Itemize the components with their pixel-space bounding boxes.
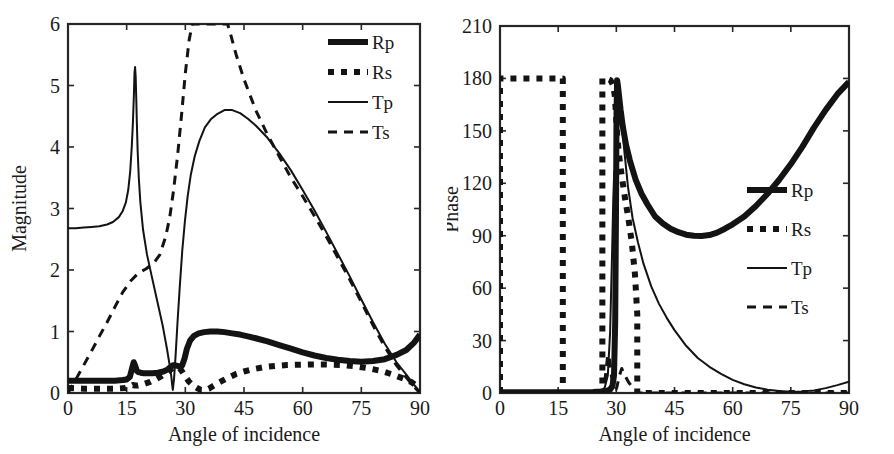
y-tick-label: 210 (462, 15, 492, 37)
x-tick-label: 90 (410, 397, 430, 419)
y-tick-label: 5 (50, 75, 60, 97)
x-tick-label: 45 (234, 397, 254, 419)
y-tick-label: 30 (472, 330, 492, 352)
magnitude-panel: 01530456075900123456Angle of incidenceMa… (0, 0, 447, 454)
x-axis-label: Angle of incidence (168, 423, 320, 446)
legend-label-Tp: Tp (791, 258, 812, 279)
y-tick-label: 2 (50, 259, 60, 281)
legend-label-Rs: Rs (372, 62, 392, 83)
x-tick-label: 45 (665, 397, 685, 419)
y-tick-label: 3 (50, 198, 60, 220)
y-tick-label: 0 (482, 382, 492, 404)
legend-label-Rp: Rp (372, 32, 394, 53)
x-tick-label: 0 (63, 397, 73, 419)
x-tick-label: 30 (606, 397, 626, 419)
x-tick-label: 60 (723, 397, 743, 419)
x-tick-label: 75 (351, 397, 371, 419)
y-tick-label: 0 (50, 382, 60, 404)
x-tick-label: 90 (839, 397, 859, 419)
y-tick-label: 6 (50, 13, 60, 35)
legend-label-Ts: Ts (791, 297, 809, 318)
legend-label-Tp: Tp (372, 92, 393, 113)
phase-chart-svg: 01530456075900306090120150180210Angle of… (447, 0, 894, 454)
magnitude-chart-svg: 01530456075900123456Angle of incidenceMa… (0, 0, 447, 454)
legend-label-Rp: Rp (791, 180, 813, 201)
legend-label-Ts: Ts (372, 122, 390, 143)
x-tick-label: 30 (175, 397, 195, 419)
x-axis-label: Angle of incidence (598, 423, 750, 446)
x-tick-label: 0 (495, 397, 505, 419)
curve-Tp (68, 67, 420, 392)
y-axis-label: Phase (447, 186, 462, 233)
legend-label-Rs: Rs (791, 219, 811, 240)
curve-Rs (68, 364, 420, 390)
y-tick-label: 150 (462, 120, 492, 142)
y-tick-label: 4 (50, 136, 60, 158)
y-tick-label: 60 (472, 277, 492, 299)
phase-panel: 01530456075900306090120150180210Angle of… (447, 0, 894, 454)
curves-group (68, 24, 420, 393)
curve-Rp (68, 332, 420, 381)
y-axis-label: Magnitude (8, 165, 31, 252)
x-tick-label: 15 (548, 397, 568, 419)
x-tick-label: 60 (293, 397, 313, 419)
y-tick-label: 120 (462, 172, 492, 194)
y-tick-label: 1 (50, 321, 60, 343)
x-tick-label: 15 (117, 397, 137, 419)
figure-canvas: 01530456075900123456Angle of incidenceMa… (0, 0, 894, 454)
y-tick-label: 90 (472, 225, 492, 247)
y-tick-label: 180 (462, 67, 492, 89)
x-tick-label: 75 (781, 397, 801, 419)
